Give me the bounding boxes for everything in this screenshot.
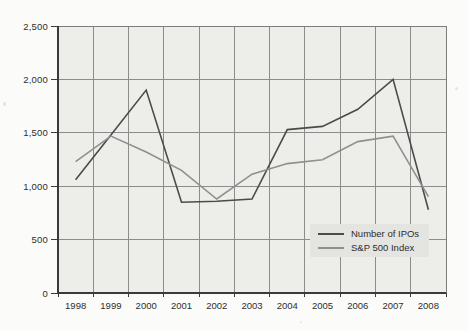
x-tick-label: 2007 xyxy=(375,300,410,311)
plot-canvas xyxy=(0,0,469,331)
legend-item-sp500: S&P 500 Index xyxy=(318,242,429,253)
x-tick-label: 1998 xyxy=(58,300,93,311)
scan-artifact xyxy=(3,102,6,106)
y-tick-label: 2,500 xyxy=(6,21,48,32)
x-tick-label: 2003 xyxy=(234,300,269,311)
x-tick-label: 2002 xyxy=(199,300,234,311)
y-tick-label: 0 xyxy=(6,288,48,299)
x-tick-label: 2005 xyxy=(305,300,340,311)
ipo-sp500-line-chart: 05001,0001,5002,0002,500 199819992000200… xyxy=(0,0,469,331)
x-tick-label: 2008 xyxy=(411,300,446,311)
y-tick-label: 1,000 xyxy=(6,181,48,192)
y-tick-label: 1,500 xyxy=(6,127,48,138)
x-tick-label: 2006 xyxy=(340,300,375,311)
x-tick-label: 1999 xyxy=(93,300,128,311)
scan-artifact xyxy=(455,87,458,90)
x-tick-label: 2004 xyxy=(270,300,305,311)
legend: Number of IPOs S&P 500 Index xyxy=(310,224,429,257)
x-tick-label: 2001 xyxy=(164,300,199,311)
legend-label-sp500: S&P 500 Index xyxy=(351,242,414,253)
sp500-line-swatch-icon xyxy=(318,247,344,249)
y-tick-label: 2,000 xyxy=(6,74,48,85)
ipo-line-swatch-icon xyxy=(318,233,344,235)
y-tick-label: 500 xyxy=(6,234,48,245)
scan-artifact xyxy=(300,321,302,323)
x-tick-label: 2000 xyxy=(129,300,164,311)
legend-label-ipos: Number of IPOs xyxy=(351,228,419,239)
legend-item-number-of-ipos: Number of IPOs xyxy=(318,228,429,239)
